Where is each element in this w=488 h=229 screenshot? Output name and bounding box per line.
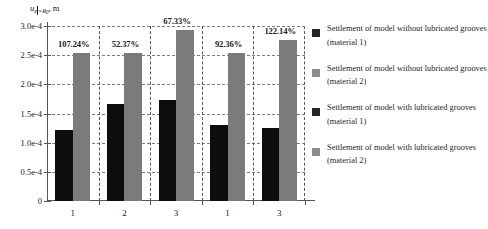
x-tick-label: 1 [71,208,76,218]
percentage-label: 122.14% [264,26,296,36]
x-tick-mark [305,201,306,205]
gridline-vertical [202,26,203,201]
x-tick-label: 3 [174,208,179,218]
bar-dark [262,128,280,201]
x-tick-label: 1 [225,208,230,218]
x-tick-mark [99,201,100,205]
y-tick-mark [44,84,51,85]
legend-label: Settlement of model without lubricated g… [327,22,488,49]
y-tick-mark [44,114,51,115]
x-tick-label: 2 [122,208,127,218]
x-tick-label: 3 [277,208,282,218]
legend-label: Settlement of model without lubricated g… [327,62,488,89]
legend-swatch-gray [312,69,320,77]
legend-label: Settlement of model with lubricated groo… [327,101,488,128]
bar-gray [124,53,142,201]
legend-item[interactable]: Settlement of model without lubricated g… [312,22,488,50]
plot-area: 00.5e-41.0e-41.5e-42.0e-42.5e-43.0e-4 12… [47,26,305,201]
y-tick-label: 2.5e-4 [21,50,42,60]
gridline-vertical [99,26,100,201]
bar-group [159,26,194,201]
y-tick-label: 0 [38,196,42,206]
y-tick-label: 0.5e-4 [21,167,42,177]
y-axis-line [47,22,48,202]
bar-group [210,26,245,201]
evaluation-bar-icon [37,6,38,15]
percentage-label: 67.33% [163,16,190,26]
bar-gray [228,53,246,201]
bar-gray [73,53,91,201]
percentage-label: 107.24% [58,39,90,49]
x-tick-mark [202,201,203,205]
bar-group [262,26,297,201]
bar-group [55,26,90,201]
y-tick-label: 2.0e-4 [21,79,42,89]
legend-swatch-gray [312,148,320,156]
gridline-vertical [253,26,254,201]
legend-item[interactable]: Settlement of model with lubricated groo… [312,141,488,169]
legend-swatch-dark [312,108,320,116]
y-tick-mark [44,143,51,144]
legend-label: Settlement of model with lubricated groo… [327,141,488,168]
gridline-vertical [150,26,151,201]
y-axis-unit: m [53,3,60,13]
chart-legend: Settlement of model without lubricated g… [312,22,488,180]
bar-dark [159,100,177,201]
legend-item[interactable]: Settlement of model without lubricated g… [312,62,488,90]
x-tick-mark [150,201,151,205]
y-tick-mark [44,55,51,56]
legend-item[interactable]: Settlement of model with lubricated groo… [312,101,488,129]
x-tick-mark [253,201,254,205]
bar-dark [210,125,228,201]
bar-gray [279,40,297,201]
y-axis-title: uzr=R0, m [30,4,59,15]
percentage-label: 52.37% [112,39,139,49]
y-tick-label: 1.5e-4 [21,109,42,119]
y-tick-mark [44,172,51,173]
y-tick-label: 1.0e-4 [21,138,42,148]
bar-gray [176,30,194,201]
bar-dark [55,130,73,201]
y-tick-label: 3.0e-4 [21,21,42,31]
y-tick-mark [44,26,51,27]
legend-swatch-dark [312,29,320,37]
bar-group [107,26,142,201]
percentage-label: 92.36% [215,39,242,49]
chart-figure: uzr=R0, m 00.5e-41.0e-41.5e-42.0e-42.5e-… [0,0,488,229]
y-tick-mark [44,201,51,202]
bar-dark [107,104,125,201]
